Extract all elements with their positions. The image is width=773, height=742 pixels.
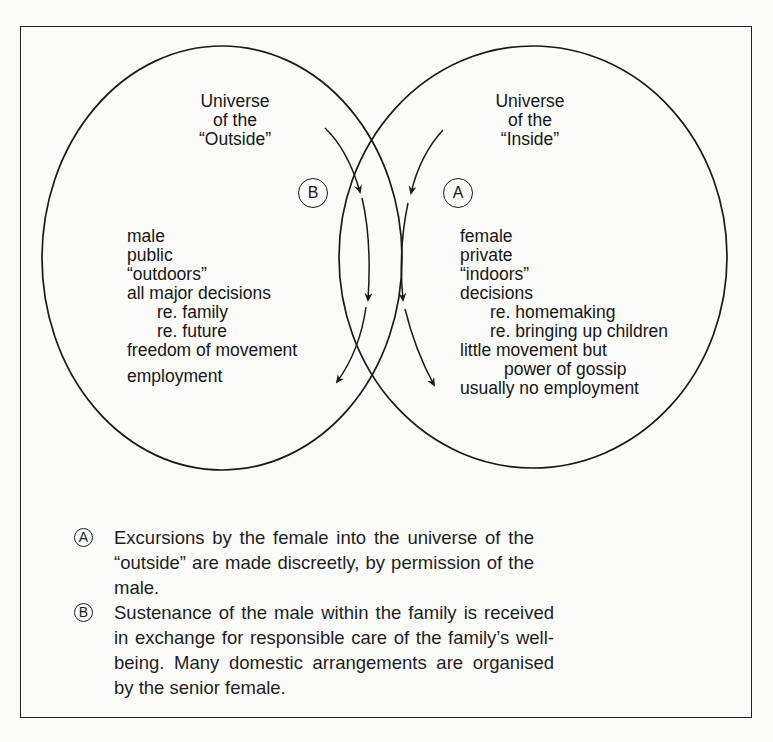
outside-item: re. family bbox=[127, 303, 297, 322]
arrow-a-middle bbox=[401, 203, 408, 300]
arrow-b-middle bbox=[362, 198, 369, 300]
outside-item: employment bbox=[127, 367, 297, 386]
legend: A Excursions by the female into the univ… bbox=[74, 525, 674, 700]
inside-item: little movement but bbox=[460, 341, 668, 360]
legend-text-a: Excursions by the female into the univer… bbox=[114, 525, 534, 600]
inside-title-line-2: of the bbox=[475, 111, 585, 130]
outside-title-line-1: Universe bbox=[180, 92, 290, 111]
inside-item: usually no employment bbox=[460, 379, 668, 398]
outside-universe-title: Universe of the “Outside” bbox=[180, 92, 290, 149]
legend-item-b: B Sustenance of the male within the fami… bbox=[74, 600, 674, 700]
inside-item: female bbox=[460, 227, 668, 246]
inside-item: decisions bbox=[460, 284, 668, 303]
legend-text-b: Sustenance of the male within the family… bbox=[114, 600, 554, 700]
arrow-b-lower bbox=[337, 307, 366, 382]
inside-attributes-list: female private “indoors” decisions re. h… bbox=[460, 227, 668, 398]
outside-item: freedom of movement bbox=[127, 341, 297, 360]
outside-item: all major decisions bbox=[127, 284, 297, 303]
inside-item: power of gossip bbox=[460, 360, 668, 379]
inside-item: private bbox=[460, 246, 668, 265]
inside-title-line-3: “Inside” bbox=[475, 130, 585, 149]
outside-title-line-3: “Outside” bbox=[180, 130, 290, 149]
inside-universe-title: Universe of the “Inside” bbox=[475, 92, 585, 149]
legend-item-a: A Excursions by the female into the univ… bbox=[74, 525, 674, 600]
inside-item: “indoors” bbox=[460, 265, 668, 284]
badge-a: A bbox=[443, 178, 473, 208]
legend-marker-b: B bbox=[74, 603, 93, 622]
outside-title-line-2: of the bbox=[180, 111, 290, 130]
outside-item: male bbox=[127, 227, 297, 246]
outside-item: re. future bbox=[127, 322, 297, 341]
legend-marker-a: A bbox=[74, 528, 93, 547]
inside-item: re. homemaking bbox=[460, 303, 668, 322]
outside-item: “outdoors” bbox=[127, 265, 297, 284]
inside-item: re. bringing up children bbox=[460, 322, 668, 341]
arrow-a-lower bbox=[405, 309, 434, 385]
outside-attributes-list: male public “outdoors” all major decisio… bbox=[127, 227, 297, 386]
inside-title-line-1: Universe bbox=[475, 92, 585, 111]
outside-item: public bbox=[127, 246, 297, 265]
badge-b: B bbox=[298, 178, 328, 208]
arrow-b-upper bbox=[325, 128, 360, 192]
arrow-a-upper bbox=[411, 130, 443, 193]
